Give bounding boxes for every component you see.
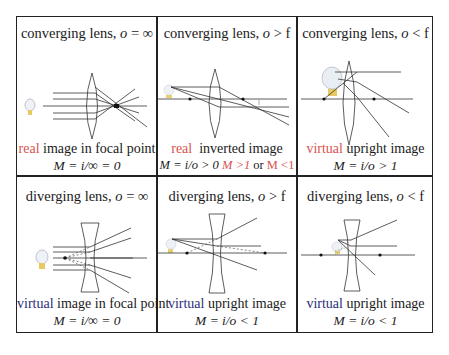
caption-text: upright image xyxy=(204,296,286,311)
cell-converging-beyond-focal: converging lens, o > f real inverted ima… xyxy=(157,17,297,176)
magnification-formula: M = i/o > 1 xyxy=(297,158,434,174)
image-type-keyword: virtual xyxy=(168,296,205,311)
light-bulb-icon xyxy=(25,99,35,115)
magnification-formula: M = i/∞ = 0 xyxy=(17,158,157,174)
diverging-lens-icon xyxy=(344,220,360,291)
magnification-formula: M = i/∞ = 0 xyxy=(17,313,157,329)
cell-converging-within-focal: converging lens, o < f virtual upright i… xyxy=(297,17,434,176)
cell-caption: real inverted image xyxy=(157,141,297,157)
cell-diverging-within-focal: diverging lens, o < f virtual upr xyxy=(297,176,434,334)
image-type-keyword: real xyxy=(171,141,192,156)
cell-diverging-infinity: diverging lens, o = ∞ xyxy=(17,176,157,334)
light-bulb-icon xyxy=(166,239,176,253)
formula-reduce: M <1 xyxy=(267,158,295,172)
cell-diverging-beyond-focal: diverging lens, o > f virtual upr xyxy=(157,176,297,334)
cell-caption: virtual upright image xyxy=(297,296,434,312)
cell-converging-infinity: converging lens, o = ∞ real image in xyxy=(17,17,157,176)
light-bulb-icon xyxy=(322,67,342,96)
formula-text: M = i/o > 0 xyxy=(160,158,222,172)
cell-caption: virtual upright image xyxy=(297,141,434,157)
magnification-formula: M = i/o > 0 M >1 or M <1 xyxy=(157,158,297,173)
image-type-keyword: real xyxy=(19,141,40,156)
cell-caption: virtual upright image xyxy=(157,296,297,312)
lens-comparison-table: converging lens, o = ∞ real image in xyxy=(16,16,433,333)
caption-text: upright image xyxy=(343,141,425,156)
image-type-keyword: virtual xyxy=(306,296,343,311)
magnification-formula: M = i/o < 1 xyxy=(297,313,434,329)
caption-text: inverted image xyxy=(192,141,283,156)
image-type-keyword: virtual xyxy=(17,296,54,311)
formula-magnify: M >1 xyxy=(222,158,250,172)
converging-lens-icon xyxy=(343,61,355,145)
light-bulb-icon xyxy=(36,250,48,269)
diverging-lens-icon xyxy=(81,223,99,292)
caption-text: image in focal point xyxy=(40,141,156,156)
image-type-keyword: virtual xyxy=(306,141,343,156)
caption-text: image in focal point xyxy=(54,296,170,311)
light-bulb-icon xyxy=(332,242,342,254)
cell-caption: virtual image in focal point xyxy=(17,296,157,312)
caption-text: upright image xyxy=(343,296,425,311)
magnification-formula: M = i/o < 1 xyxy=(157,313,297,329)
cell-caption: real image in focal point xyxy=(17,141,157,157)
formula-or: or xyxy=(250,158,267,172)
